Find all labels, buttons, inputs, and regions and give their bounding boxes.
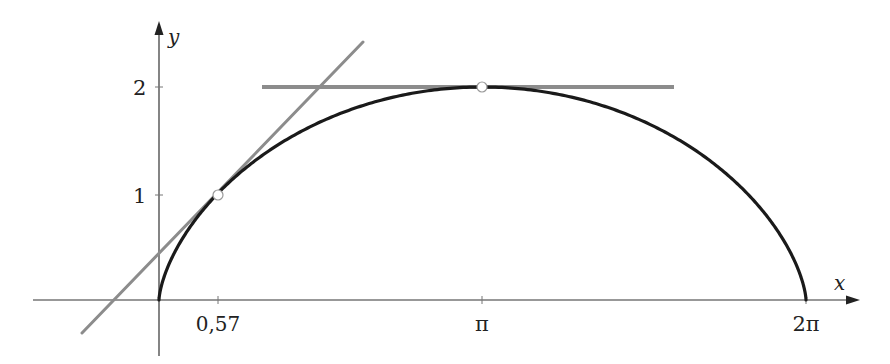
- x-tick-label-2pi: 2π: [792, 312, 819, 336]
- x-tick-label-pi: π: [475, 312, 489, 336]
- x-tick-label-057: 0,57: [196, 312, 241, 336]
- x-axis-label: x: [834, 271, 845, 295]
- axes: [33, 21, 860, 356]
- y-axis-arrow-icon: [155, 21, 164, 35]
- y-axis-label: y: [167, 25, 180, 49]
- x-axis-arrow-icon: [846, 296, 860, 305]
- point-marker-057: [213, 190, 223, 200]
- point-marker-pi: [477, 82, 487, 92]
- cycloid-figure: y x 2 1 0,57 π 2π: [0, 0, 890, 364]
- y-tick-label-1: 1: [133, 184, 146, 208]
- y-tick-label-2: 2: [133, 76, 146, 100]
- cycloid-curve: [159, 87, 806, 300]
